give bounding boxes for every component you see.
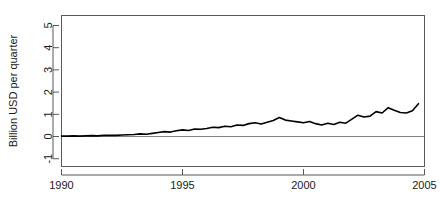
y-tick-label: 0 — [43, 133, 55, 139]
y-axis-title: Billion USD per quarter — [7, 34, 19, 147]
y-tick-label: 2 — [43, 89, 55, 95]
x-tick-label: 1990 — [49, 179, 73, 191]
y-tick-label: -1 — [43, 154, 55, 164]
x-tick-label: 1995 — [170, 179, 194, 191]
y-tick-label: 3 — [43, 67, 55, 73]
y-tick-label: 4 — [43, 45, 55, 51]
y-tick-label: 5 — [43, 22, 55, 28]
x-tick-label: 2005 — [412, 179, 436, 191]
line-chart: -1012345 1990199520002005 Billion USD pe… — [0, 0, 440, 213]
chart-figure: -1012345 1990199520002005 Billion USD pe… — [0, 0, 440, 213]
x-tick-label: 2000 — [291, 179, 315, 191]
y-tick-label: 1 — [43, 111, 55, 117]
